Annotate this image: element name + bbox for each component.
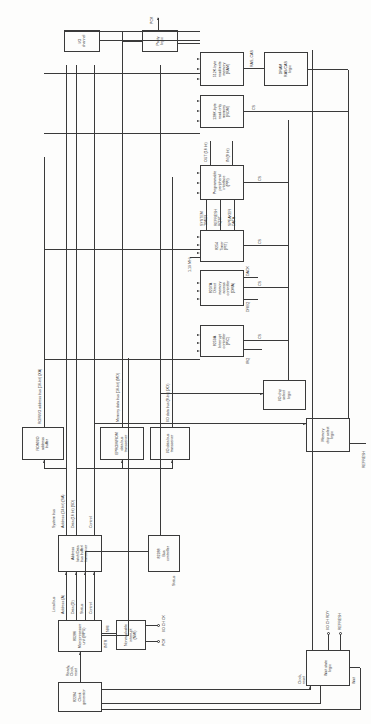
rom-cs: [244, 111, 348, 112]
system-data-bus: [76, 65, 77, 535]
in-8-label: IN (8 bit): [226, 148, 230, 162]
dreq-label: DREQ: [246, 302, 250, 312]
pic-in-3: [197, 334, 200, 336]
ppi-in-line: [232, 141, 233, 165]
refresh-wait-wire: [340, 634, 341, 650]
wait-label: Wait: [352, 677, 356, 684]
ppi-in-2: [197, 182, 200, 184]
intr-line: [102, 635, 128, 636]
dma-cs: [244, 287, 288, 288]
ready-return-line: [102, 703, 320, 704]
rom-block: 128K-byte read-only memory (ROM): [200, 95, 244, 128]
pic-in-1: [197, 350, 200, 352]
mem-cs-run: [348, 70, 349, 418]
memory-data-bus-label: Memory data bus (16-bit) (MD): [116, 373, 120, 422]
clock-reset-label: Clock, reset: [298, 674, 306, 684]
rom-io-address-buffer-block: ROM/I/O address buffer: [22, 427, 64, 460]
system-address-bus: [66, 65, 67, 535]
system-bus-cross-5: [64, 31, 200, 32]
local-control-label: Control: [89, 602, 93, 614]
io-ch-rdy-label: I/O CH RDY: [326, 610, 330, 630]
local-data-label: Data (D): [71, 600, 75, 614]
mem-cs-input: [94, 423, 306, 424]
irq-line: [244, 349, 262, 350]
pit-cs: [244, 245, 288, 246]
wait-to-clock: [102, 709, 360, 710]
io-ch-rdy-terminal: [327, 632, 330, 635]
eprom-data-transceiver-block: EPROM/ROM data bus transceiver: [100, 427, 144, 460]
dack-line: [244, 277, 258, 278]
pic-block: 8259A Interrupt controller (PIC): [200, 325, 244, 357]
ppi-out-line: [210, 141, 211, 165]
rom-io-address-bus-label: ROM/I/O address bus (16-bit) (XA): [38, 369, 42, 424]
refresh-mem-wire: [350, 443, 366, 444]
bc-control-line: [160, 65, 161, 535]
clock-out-line: [102, 689, 310, 690]
out-16-label: OUT (16 bit): [204, 142, 208, 162]
pck-parity-label: PCK: [150, 17, 154, 24]
system-control-label: Control: [89, 516, 93, 528]
ppi-in-3: [197, 172, 200, 174]
local-bus-label: Local bus: [52, 597, 56, 612]
rom-in-3: [197, 100, 200, 102]
local-control-line: [94, 572, 95, 620]
ppi-cs: [244, 182, 288, 183]
pit-cs-label: CS: [258, 239, 262, 244]
dreq-line: [244, 299, 258, 300]
rom-in-1: [197, 120, 200, 122]
refresh-wait-terminal: [339, 632, 342, 635]
io-data-bus: [172, 177, 173, 427]
system-bus-label: System bus: [52, 509, 56, 528]
wait-state-logic-block: Wait state logic: [306, 650, 350, 686]
pit-in-3: [197, 236, 200, 238]
pck-terminal: [157, 641, 160, 644]
pic-cs-label: CS: [258, 334, 262, 339]
pit-block: 8254 Timer (PIT): [200, 230, 244, 262]
dma-in-1: [197, 298, 200, 300]
dram-cs: [308, 69, 348, 70]
status-to-bus-controller: [85, 551, 148, 552]
io-ch-rdy-wire: [328, 634, 329, 650]
dma-in-3: [197, 282, 200, 284]
dack-label: DACK: [246, 266, 250, 276]
io-data-transceiver-block: I/O data bus transceiver: [150, 427, 190, 460]
parity-md-tap: [122, 41, 142, 42]
ram-block: 512K-byte read/write memory (RAM): [200, 52, 244, 86]
local-status-label: Status: [80, 604, 84, 614]
rom-cs-label: CS: [252, 105, 256, 110]
intr-run: [128, 358, 129, 636]
wait-status-run: [312, 50, 313, 650]
clk-119-label: 1.19 MHz: [188, 257, 192, 272]
refresh-wait-label: REFRESH: [338, 613, 342, 630]
cs-bus: [288, 120, 289, 380]
rom-in-2: [197, 110, 200, 112]
bus-controller-block: 82288 Bus controller: [148, 535, 180, 572]
system-bus-cross-4: [44, 73, 200, 74]
refresh-mem-label: REFRESH: [362, 451, 366, 468]
ras-cas-label: RAS, CAS: [250, 50, 254, 67]
speaker-data-label: SPEAKER DATA: [228, 209, 236, 226]
io-cs-input: [160, 393, 263, 394]
system-address-label: Address (24 bit) (SA): [61, 494, 65, 528]
ppi-cs-label: CS: [258, 176, 262, 181]
refresh-rqst-label: REFRESH RQST: [214, 209, 222, 226]
pck-label: PCK: [162, 639, 166, 646]
clock-generator-block: 82284 Clock generator: [58, 682, 102, 712]
system-bus-cross-3: [44, 133, 200, 134]
io-ch-ck-terminal: [157, 625, 160, 628]
ras-cas-line: [244, 68, 264, 69]
pic-cs: [244, 340, 288, 341]
pit-in-2: [197, 244, 200, 246]
dram-logic-block: DRAM RAS/CAS logic: [264, 52, 308, 86]
clock-to-cpu-line: [80, 652, 81, 682]
system-bus-cross-2: [44, 249, 200, 250]
system-timer-label: SYSTEM TIMER: [200, 211, 208, 226]
system-board-block-diagram: 82284 Clock generator 80286 Microprocess…: [0, 0, 371, 724]
ram-in-3: [197, 58, 200, 60]
status-label: Status: [172, 576, 176, 586]
parity-logic-block: Parity logic: [142, 30, 178, 52]
rom-io-address-bus: [44, 157, 45, 427]
io-channel-bus: [100, 40, 200, 41]
dma-block: 8237A Direct memory access controller (D…: [200, 270, 244, 306]
diagram-page: 82284 Clock generator 80286 Microprocess…: [0, 0, 371, 724]
